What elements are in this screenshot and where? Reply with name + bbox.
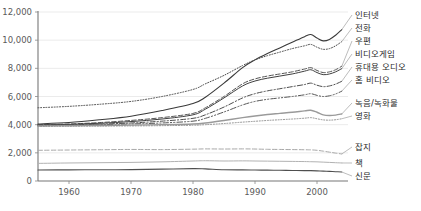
y-tick-label: 4,000	[8, 120, 32, 130]
x-tick-label: 1980	[182, 187, 204, 197]
series-line-2	[38, 42, 342, 108]
series-label-9: 잡지	[355, 142, 371, 152]
series-label-2: 전화	[355, 23, 371, 33]
y-tick-labels: 02,0004,0006,0008,00010,00012,000	[2, 7, 38, 186]
series-label-6: 홈 비디오	[355, 75, 390, 85]
line-chart: 02,0004,0006,0008,00010,00012,0001960197…	[0, 0, 421, 211]
x-tick-label: 1960	[58, 187, 80, 197]
series-label-5: 휴대용 오디오	[355, 62, 406, 72]
series-line-1	[38, 30, 342, 124]
series-lines	[38, 30, 342, 172]
series-line-5	[38, 81, 342, 125]
series-label-4: 비디오게임	[355, 49, 395, 59]
leader-line-4	[342, 54, 352, 69]
x-tick-label: 1990	[244, 187, 266, 197]
series-label-7: 녹음/녹화물	[355, 98, 398, 108]
axes	[38, 11, 348, 181]
y-tick-label: 2,000	[8, 148, 32, 158]
chart-container: 02,0004,0006,0008,00010,00012,0001960197…	[0, 0, 421, 211]
y-tick-label: 0	[27, 176, 32, 186]
y-tick-label: 8,000	[8, 63, 32, 73]
gridlines	[38, 12, 348, 153]
series-label-11: 신문	[355, 171, 371, 181]
series-line-11	[38, 169, 342, 172]
leader-line-8	[342, 116, 352, 119]
series-label-10: 책	[355, 158, 363, 168]
leader-line-1	[342, 15, 352, 30]
leader-line-7	[342, 103, 352, 114]
leader-line-11	[342, 172, 352, 176]
leader-line-2	[342, 28, 352, 42]
series-line-9	[38, 149, 342, 154]
y-tick-label: 12,000	[2, 7, 32, 17]
x-tick-labels: 19601970198019902000	[58, 181, 328, 197]
x-tick-label: 2000	[306, 187, 328, 197]
x-tick-label: 1970	[120, 187, 142, 197]
leader-line-6	[342, 80, 352, 91]
leader-line-5	[342, 67, 352, 81]
leader-lines	[342, 15, 352, 176]
series-line-10	[38, 161, 342, 164]
series-label-8: 영화	[355, 111, 371, 121]
series-labels: 인터넷전화우편비디오게임휴대용 오디오홈 비디오녹음/녹화물영화잡지책신문	[355, 10, 406, 181]
y-tick-label: 6,000	[8, 92, 32, 102]
leader-line-3	[342, 41, 352, 66]
series-label-3: 우편	[355, 36, 371, 46]
y-tick-label: 10,000	[2, 35, 32, 45]
series-label-1: 인터넷	[355, 10, 379, 20]
